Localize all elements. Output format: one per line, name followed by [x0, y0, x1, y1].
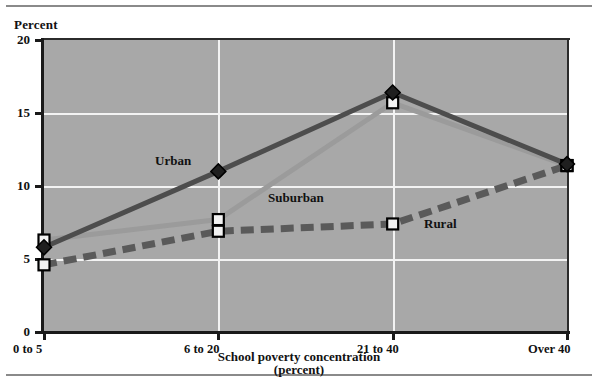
series-line-suburban: [44, 103, 567, 240]
data-point-suburban-1: [213, 214, 224, 225]
data-point-rural-1: [213, 226, 224, 237]
data-point-rural-2: [387, 218, 398, 229]
data-point-urban-1: [211, 164, 226, 179]
data-point-rural-0: [39, 259, 50, 270]
series-line-urban: [44, 93, 567, 248]
series-label-urban: Urban: [155, 153, 191, 169]
series-label-rural: Rural: [424, 216, 457, 232]
series-label-suburban: Suburban: [268, 190, 324, 206]
